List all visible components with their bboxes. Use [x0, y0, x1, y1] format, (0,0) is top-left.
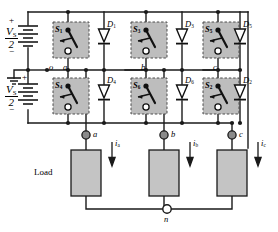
diode-label-D1: D1 [107, 20, 116, 29]
load-c-bottom-lead [170, 196, 232, 209]
diode-label-D5: D5 [243, 20, 252, 29]
load-box-b [149, 150, 179, 196]
neutral-node-n [163, 205, 171, 213]
diode-symbol-D6 [176, 85, 188, 100]
load-box-a [71, 150, 101, 196]
diode-label-D6: D6 [185, 76, 194, 85]
diode-symbol-D4 [98, 85, 110, 100]
diode-label-D3: D3 [185, 20, 194, 29]
output-node-a [82, 131, 90, 139]
source-upper-denominator: 2 [5, 39, 18, 50]
circuit-schematic-canvas [0, 0, 278, 232]
current-label-ib: ib [193, 139, 198, 148]
switch-label-S1: S1 [55, 25, 62, 34]
source-upper-value: VS 2 [5, 26, 18, 51]
load-box-c [217, 150, 247, 196]
diode-label-D4: D4 [107, 76, 116, 85]
source-upper-numerator: V [6, 25, 13, 37]
diode-symbol-D1 [98, 29, 110, 44]
switch-label-S2: S2 [205, 81, 212, 90]
source-lower-plus-sign: + [22, 73, 27, 82]
phase-node-label-c: c [213, 63, 217, 72]
switch-label-S6: S6 [133, 81, 140, 90]
current-label-ia: ia [115, 139, 120, 148]
switch-label-S4: S4 [55, 81, 62, 90]
output-node-label-a: a [93, 130, 97, 139]
output-node-label-b: b [171, 130, 175, 139]
source-lower-subscript: S [13, 89, 17, 96]
phase-node-label-b: b [141, 63, 145, 72]
circuit-diagram-figure: + − VS 2 + − VS 2 o S1 S3 S5 S4 S6 S2 D1… [0, 0, 278, 232]
output-node-b [160, 131, 168, 139]
diode-symbol-D3 [176, 29, 188, 44]
source-lower-value: VS 2 [5, 84, 18, 109]
load-boxes [71, 150, 247, 196]
output-node-c [228, 131, 236, 139]
switch-label-S3: S3 [133, 25, 140, 34]
source-upper-subscript: S [13, 31, 17, 38]
switch-label-S5: S5 [205, 25, 212, 34]
dc-source-lower [18, 84, 38, 104]
source-lower-numerator: V [6, 83, 13, 95]
source-upper-plus-sign: + [9, 16, 14, 25]
load-label: Load [34, 168, 53, 177]
load-a-bottom-lead [86, 196, 164, 209]
output-terminal-nodes [82, 131, 236, 139]
phase-node-label-a: a [63, 63, 67, 72]
diode-label-D2: D2 [243, 76, 252, 85]
dc-source-upper [18, 26, 38, 46]
midpoint-node-label-o: o [49, 63, 53, 72]
current-label-ic: ic [261, 139, 266, 148]
source-lower-denominator: 2 [5, 97, 18, 108]
output-node-label-c: c [239, 130, 243, 139]
neutral-node-label-n: n [164, 215, 168, 224]
